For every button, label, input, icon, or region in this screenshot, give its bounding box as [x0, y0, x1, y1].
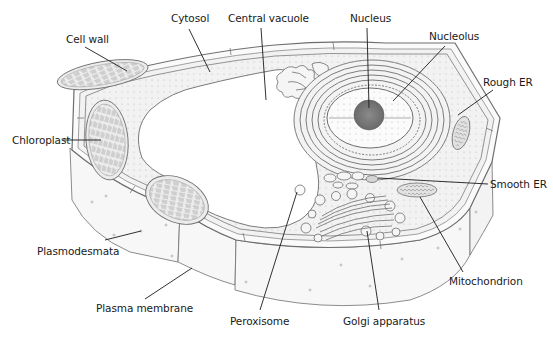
label-cytosol: Cytosol	[171, 12, 209, 24]
label-plasma-membrane: Plasma membrane	[96, 302, 193, 314]
label-chloroplast: Chloroplast	[12, 134, 70, 146]
label-plasmodesmata: Plasmodesmata	[37, 245, 119, 257]
label-rough-er: Rough ER	[483, 76, 533, 88]
label-nucleolus: Nucleolus	[429, 30, 479, 42]
label-nucleus: Nucleus	[350, 12, 391, 24]
label-golgi-apparatus: Golgi apparatus	[343, 315, 425, 327]
label-peroxisome: Peroxisome	[230, 315, 289, 327]
nucleus	[327, 88, 413, 148]
plant-cell-diagram: Cell wall Cytosol Central vacuole Nucleu…	[0, 0, 553, 338]
label-central-vacuole: Central vacuole	[228, 12, 309, 24]
plant-cell-illustration	[0, 0, 553, 338]
label-mitochondrion: Mitochondrion	[449, 275, 523, 287]
label-smooth-er: Smooth ER	[490, 178, 547, 190]
leader-line-plasma-membrane	[145, 268, 192, 299]
label-cell-wall: Cell wall	[66, 33, 109, 45]
